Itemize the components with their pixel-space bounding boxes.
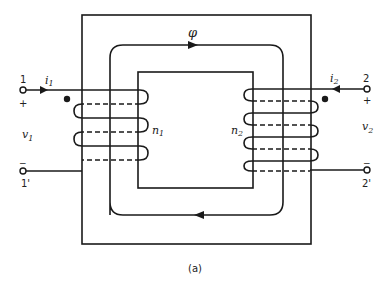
voltage-v1-label: v1 [22,128,33,143]
secondary-winding [244,89,366,171]
flux-label: φ [188,25,198,40]
flux-path [110,45,283,215]
terminal-2 [364,86,370,92]
current-arrow-i2 [332,85,340,93]
primary-minus-label: − [19,158,27,168]
terminal-1 [20,87,26,93]
core-outer-edge [82,15,311,244]
turns-n1-label: n1 [152,124,164,138]
primary-winding [26,90,148,171]
secondary-minus-label: − [363,158,371,168]
polarity-dot-primary [64,96,70,102]
voltage-v2-label: v2 [362,120,373,135]
primary-plus-label: + [19,98,27,109]
figure-caption: (a) [188,263,202,274]
terminal-2-label: 2 [363,73,369,84]
current-i2-label: i2 [330,72,339,86]
terminal-2-prime-label: 2' [362,178,371,189]
terminal-1-label: 1 [20,74,26,85]
secondary-plus-label: + [363,95,371,106]
polarity-dot-secondary [322,96,328,102]
current-arrow-i1 [40,86,48,94]
current-i1-label: i1 [45,74,54,88]
turns-n2-label: n2 [231,124,243,138]
flux-arrow-bottom [194,211,204,219]
transformer-diagram: φ 1 + i1 v1 − 1' n1 2 + i2 v2 − 2' n2 (a… [0,0,392,284]
flux-arrow-top [188,41,198,49]
terminal-1-prime-label: 1' [21,178,30,189]
terminal-1-prime [20,168,26,174]
